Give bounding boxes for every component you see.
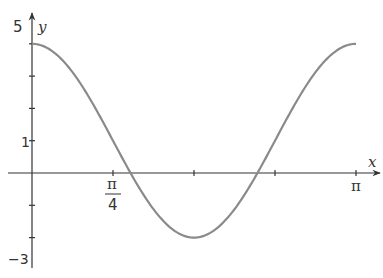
cosine-chart: 5 y 1 −3 x π π 4 <box>0 0 383 278</box>
y-tick-label-neg3: −3 <box>8 251 29 267</box>
x-tick-label-pi4-denominator: 4 <box>108 196 118 214</box>
x-axis-label: x <box>368 153 377 171</box>
y-axis-label: y <box>37 18 47 36</box>
x-tick-label-pi4-numerator: π <box>107 175 117 193</box>
cosine-curve <box>32 44 356 238</box>
y-tick-label-5: 5 <box>13 18 23 36</box>
x-tick-label-pi: π <box>351 177 361 195</box>
y-tick-label-1: 1 <box>21 134 30 150</box>
